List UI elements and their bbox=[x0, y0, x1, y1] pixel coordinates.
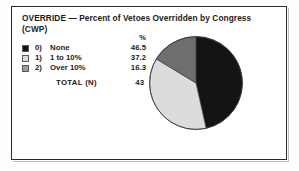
legend-row-key: 1) bbox=[35, 53, 42, 62]
legend-row-key: 2) bbox=[35, 63, 42, 72]
legend-row-label: Over 10% bbox=[50, 63, 86, 72]
black-swatch-icon bbox=[22, 45, 29, 52]
total-label: TOTAL (N) bbox=[56, 78, 97, 87]
pie-chart-svg bbox=[149, 36, 243, 130]
mid-gray-swatch-icon bbox=[22, 65, 29, 72]
legend-row-key: 0) bbox=[35, 43, 42, 52]
figure-title: OVERRIDE — Percent of Vetoes Overridden … bbox=[22, 13, 254, 34]
legend-row-none[interactable]: 0) None 46.5 bbox=[20, 43, 146, 53]
pie-slices bbox=[150, 37, 243, 130]
legend-row-1-to-10[interactable]: 1) 1 to 10% 37.2 bbox=[20, 53, 146, 63]
total-value: 43 bbox=[135, 78, 144, 87]
pie-chart bbox=[149, 36, 243, 130]
legend-row-label: None bbox=[50, 43, 70, 52]
legend-row-over-10[interactable]: 2) Over 10% 16.3 bbox=[20, 63, 146, 73]
legend-row-value: 16.3 bbox=[131, 63, 146, 72]
legend-row-value: 37.2 bbox=[131, 53, 146, 62]
legend-row-label: 1 to 10% bbox=[50, 53, 82, 62]
percent-column-header: % bbox=[20, 33, 146, 42]
light-gray-swatch-icon bbox=[22, 55, 29, 62]
legend-row-value: 46.5 bbox=[131, 43, 146, 52]
total-row: TOTAL (N) 43 bbox=[20, 78, 146, 88]
figure-panel: OVERRIDE — Percent of Vetoes Overridden … bbox=[0, 0, 299, 171]
